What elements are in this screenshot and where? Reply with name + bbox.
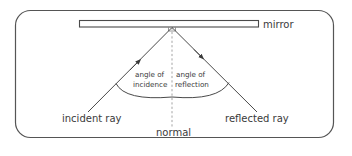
mirror	[80, 21, 259, 28]
reflection-diagram: mirror angle of incidence angle of refle…	[0, 0, 352, 156]
normal-label: normal	[156, 127, 191, 138]
angle-of-incidence-label-line2: incidence	[133, 80, 168, 89]
angle-of-reflection-label-line2: reflection	[175, 80, 209, 89]
reflected-ray-label: reflected ray	[225, 113, 289, 124]
incident-ray-label: incident ray	[62, 113, 122, 124]
reflected-ray-arrow-icon	[194, 50, 202, 58]
incident-ray-arrow-icon	[130, 61, 139, 70]
mirror-label: mirror	[263, 19, 294, 30]
angle-of-incidence-label-line1: angle of	[135, 70, 165, 79]
angle-of-reflection-label-line1: angle of	[176, 70, 206, 79]
